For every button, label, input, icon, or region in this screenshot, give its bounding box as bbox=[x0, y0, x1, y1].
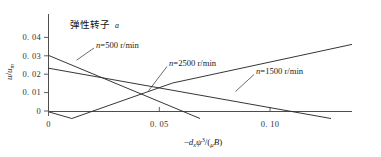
chart-title: 弹性转子a bbox=[70, 19, 119, 30]
svg-text:u/um: u/um bbox=[4, 63, 15, 80]
leader-line-n500 bbox=[77, 48, 95, 60]
y-axis-title-den-sub: m bbox=[8, 63, 15, 68]
y-tick-label-0-03: 0. 03 bbox=[23, 51, 42, 61]
y-tick-label-0-04: 0. 04 bbox=[23, 32, 42, 42]
x-tick-label-0: 0 bbox=[46, 119, 51, 129]
leader-line-n2500 bbox=[149, 67, 168, 91]
y-tick-label-0-02: 0. 02 bbox=[23, 69, 42, 79]
x-axis-title-close: ) bbox=[219, 137, 222, 147]
leader-line-n1500 bbox=[236, 75, 255, 92]
chart-container: 0 0. 01 0. 02 0. 03 0. 04 u/um 0 0. 05 0… bbox=[0, 0, 381, 157]
chart-title-main: 弹性转子 bbox=[70, 19, 110, 30]
series-label-n500-value: =500 r/min bbox=[100, 40, 139, 50]
y-axis-title: u/um bbox=[4, 63, 15, 80]
series-label-n1500-value: =1500 r/min bbox=[260, 66, 304, 76]
series-label-n500: n=500 r/min bbox=[96, 40, 140, 50]
x-tick-label-0-10: 0. 10 bbox=[261, 119, 280, 129]
series-line-n2500 bbox=[49, 44, 353, 118]
series-label-n2500: n=2500 r/min bbox=[169, 58, 217, 68]
line-chart: 0 0. 01 0. 02 0. 03 0. 04 u/um 0 0. 05 0… bbox=[0, 0, 381, 157]
series-label-n1500: n=1500 r/min bbox=[256, 66, 304, 76]
y-tick-label-0: 0 bbox=[36, 106, 41, 116]
x-axis-title: −dxψ3/(μB) bbox=[184, 136, 222, 148]
y-tick-label-0-01: 0. 01 bbox=[23, 87, 42, 97]
x-tick-label-0-05: 0. 05 bbox=[150, 119, 169, 129]
chart-title-suffix: a bbox=[115, 21, 119, 30]
series-label-n2500-value: =2500 r/min bbox=[173, 58, 217, 68]
